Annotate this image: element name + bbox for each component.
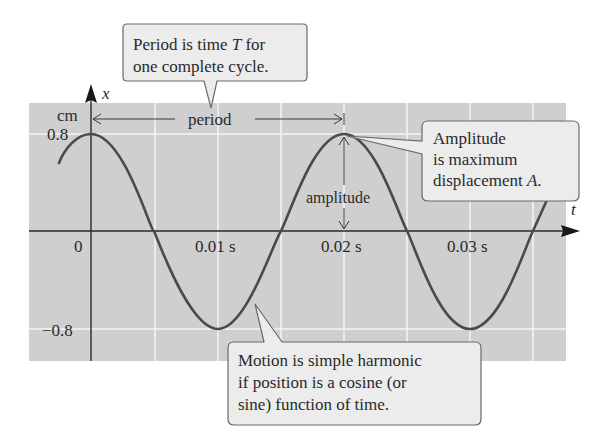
- x-tick-0.03: 0.03 s: [447, 237, 488, 256]
- x-axis-label: x: [101, 84, 110, 103]
- x-tick-0.01: 0.01 s: [195, 237, 236, 256]
- amplitude-label: amplitude: [306, 189, 370, 207]
- motion-callout-line1: Motion is simple harmonic: [238, 351, 422, 370]
- amplitude-callout-line3-pre: displacement: [433, 171, 527, 190]
- svg-text:Period is time T for: Period is time T for: [133, 35, 266, 54]
- period-callout-line1-pre: Period is time: [133, 35, 232, 54]
- period-label: period: [188, 110, 232, 129]
- x-tick-0.02: 0.02 s: [321, 237, 362, 256]
- amplitude-callout-line3-post: .: [537, 171, 541, 190]
- period-callout-line1-post: for: [241, 35, 265, 54]
- t-axis-label: t: [571, 200, 577, 219]
- shm-diagram: t x cm 0.8 0 −0.8 0.01 s 0.02 s 0.03 s p…: [0, 0, 614, 448]
- y-tick-0.8: 0.8: [47, 125, 68, 144]
- amplitude-callout-line1: Amplitude: [433, 129, 506, 148]
- y-unit-label: cm: [57, 106, 78, 125]
- amplitude-callout-symbol-A: A: [526, 171, 538, 190]
- motion-callout-line3: sine) function of time.: [238, 395, 389, 414]
- y-tick-0: 0: [74, 237, 83, 256]
- y-tick-neg-0.8: −0.8: [42, 321, 73, 340]
- period-callout: Period is time T for one complete cycle.: [123, 24, 307, 108]
- svg-text:displacement A.: displacement A.: [433, 171, 542, 190]
- amplitude-callout-line2: is maximum: [433, 150, 518, 169]
- period-callout-line2: one complete cycle.: [133, 57, 268, 76]
- t-axis-arrow-icon: [561, 225, 580, 237]
- motion-callout-line2: if position is a cosine (or: [238, 373, 407, 392]
